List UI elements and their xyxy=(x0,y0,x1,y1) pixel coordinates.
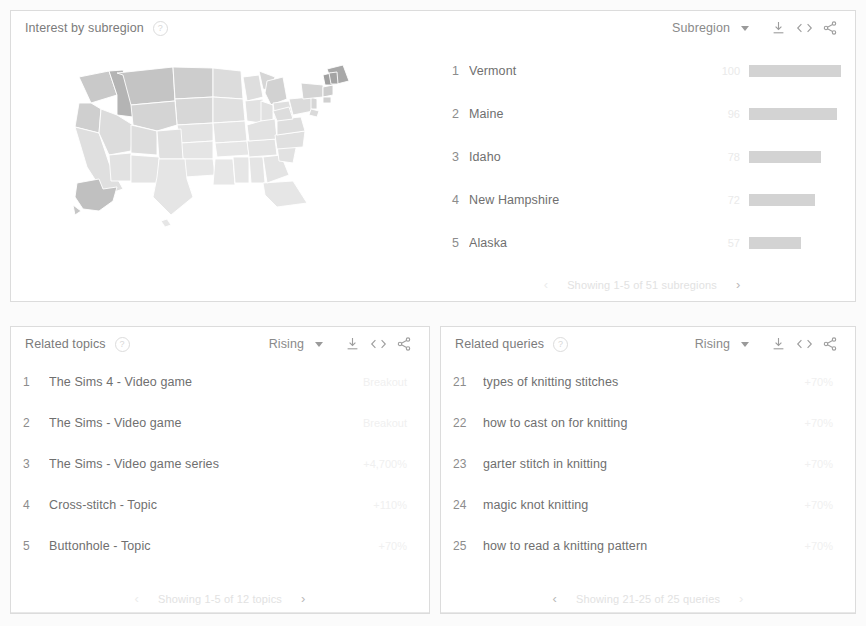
query-name: types of knitting stitches xyxy=(483,375,805,389)
value-bar-track xyxy=(749,65,841,77)
pagination-prev-button[interactable]: ‹ xyxy=(131,590,141,607)
embed-code-icon[interactable] xyxy=(791,333,817,355)
subregion-name: Alaska xyxy=(469,236,713,250)
pagination-prev-button[interactable]: ‹ xyxy=(541,276,551,293)
interest-by-subregion-card: Interest by subregion ? Subregion xyxy=(10,10,856,302)
rank-number: 5 xyxy=(443,236,469,250)
subregion-selector-label[interactable]: Subregion xyxy=(672,21,730,35)
share-icon[interactable] xyxy=(391,333,417,355)
pagination-next-button[interactable]: › xyxy=(298,590,308,607)
chevron-down-icon[interactable] xyxy=(741,342,749,347)
state-colorado xyxy=(157,129,183,159)
table-row[interactable]: 4 New Hampshire 72 xyxy=(443,178,841,221)
table-row[interactable]: 3 Idaho 78 xyxy=(443,135,841,178)
download-icon[interactable] xyxy=(765,17,791,39)
list-item[interactable]: 4 Cross-stitch - Topic +110% xyxy=(23,484,417,525)
state-maryland-delaware xyxy=(309,109,319,117)
topics-pagination: ‹ Showing 1-5 of 12 topics › xyxy=(11,590,429,607)
pagination-next-button[interactable]: › xyxy=(733,276,743,293)
embed-code-icon[interactable] xyxy=(791,17,817,39)
value-bar-track xyxy=(749,237,841,249)
value-bar-fill xyxy=(749,194,815,206)
value-bar-track xyxy=(749,108,841,120)
list-item[interactable]: 22 how to cast on for knitting +70% xyxy=(453,402,843,443)
state-tennessee xyxy=(247,139,277,157)
state-wisconsin xyxy=(243,75,263,101)
subregion-value: 57 xyxy=(713,237,749,249)
help-circle-icon[interactable]: ? xyxy=(115,337,130,352)
state-illinois xyxy=(245,99,263,123)
list-item[interactable]: 23 garter stitch in knitting +70% xyxy=(453,443,843,484)
subregion-value: 72 xyxy=(713,194,749,206)
pagination-status: Showing 1-5 of 51 subregions xyxy=(567,279,717,291)
trends-page: Interest by subregion ? Subregion xyxy=(0,0,866,626)
state-massachusetts xyxy=(323,85,333,97)
subregion-value: 100 xyxy=(713,65,749,77)
list-item[interactable]: 24 magic knot knitting +70% xyxy=(453,484,843,525)
state-louisiana xyxy=(213,159,235,185)
state-iowa xyxy=(213,97,245,123)
state-alaska-islands xyxy=(73,205,81,215)
list-item[interactable]: 2 The Sims - Video game Breakout xyxy=(23,402,417,443)
topic-name: The Sims - Video game xyxy=(49,416,363,430)
list-item[interactable]: 21 types of knitting stitches +70% xyxy=(453,361,843,402)
query-growth-value: +70% xyxy=(805,540,843,552)
table-row[interactable]: 1 Vermont 100 xyxy=(443,49,841,92)
subregion-rank-list: 1 Vermont 100 2 Maine 96 3 xyxy=(443,49,841,264)
subregion-name: Idaho xyxy=(469,150,713,164)
topics-selector-label[interactable]: Rising xyxy=(269,337,304,351)
us-map-svg xyxy=(61,55,391,251)
download-icon[interactable] xyxy=(339,333,365,355)
united-states-choropleth-map[interactable] xyxy=(11,45,441,260)
topics-card-title: Related topics xyxy=(25,337,106,351)
rank-number: 1 xyxy=(23,375,49,389)
card-bottom-divider xyxy=(441,612,855,613)
download-icon[interactable] xyxy=(765,333,791,355)
topic-name: The Sims - Video game series xyxy=(49,457,363,471)
topic-growth-value: +4,700% xyxy=(363,458,417,470)
help-circle-icon[interactable]: ? xyxy=(553,337,568,352)
list-item[interactable]: 3 The Sims - Video game series +4,700% xyxy=(23,443,417,484)
rank-number: 4 xyxy=(23,498,49,512)
rank-number: 22 xyxy=(453,416,483,430)
queries-selector-label[interactable]: Rising xyxy=(695,337,730,351)
state-new-hampshire xyxy=(329,72,338,84)
state-new-york xyxy=(301,83,323,99)
chevron-down-icon[interactable] xyxy=(741,26,749,31)
state-michigan xyxy=(265,77,287,105)
help-circle-icon[interactable]: ? xyxy=(153,21,168,36)
chevron-down-icon[interactable] xyxy=(315,342,323,347)
state-south-dakota xyxy=(175,97,213,125)
subregion-card-header: Interest by subregion ? Subregion xyxy=(11,11,855,45)
subregion-name: New Hampshire xyxy=(469,193,713,207)
query-growth-value: +70% xyxy=(805,499,843,511)
embed-code-icon[interactable] xyxy=(365,333,391,355)
table-row[interactable]: 5 Alaska 57 xyxy=(443,221,841,264)
value-bar-fill xyxy=(749,237,801,249)
list-item[interactable]: 25 how to read a knitting pattern +70% xyxy=(453,525,843,566)
share-icon[interactable] xyxy=(817,333,843,355)
value-bar-fill xyxy=(749,108,837,120)
value-bar-track xyxy=(749,151,841,163)
table-row[interactable]: 2 Maine 96 xyxy=(443,92,841,135)
subregion-header-tools: Subregion xyxy=(672,17,843,39)
topic-name: Cross-stitch - Topic xyxy=(49,498,373,512)
rank-number: 24 xyxy=(453,498,483,512)
rank-number: 1 xyxy=(443,64,469,78)
rank-number: 2 xyxy=(23,416,49,430)
pagination-next-button[interactable]: › xyxy=(736,590,746,607)
pagination-prev-button[interactable]: ‹ xyxy=(549,590,559,607)
state-connecticut-ri xyxy=(323,97,331,103)
list-item[interactable]: 1 The Sims 4 - Video game Breakout xyxy=(23,361,417,402)
value-bar-fill xyxy=(749,65,841,77)
list-item[interactable]: 5 Buttonhole - Topic +70% xyxy=(23,525,417,566)
subregion-card-title: Interest by subregion xyxy=(25,21,144,35)
queries-card-body: 21 types of knitting stitches +70% 22 ho… xyxy=(441,361,855,613)
query-name: garter stitch in knitting xyxy=(483,457,805,471)
state-new-mexico xyxy=(131,155,159,183)
rank-number: 23 xyxy=(453,457,483,471)
share-icon[interactable] xyxy=(817,17,843,39)
topic-growth-value: Breakout xyxy=(363,376,417,388)
query-growth-value: +70% xyxy=(805,458,843,470)
state-hawaii xyxy=(161,219,171,227)
